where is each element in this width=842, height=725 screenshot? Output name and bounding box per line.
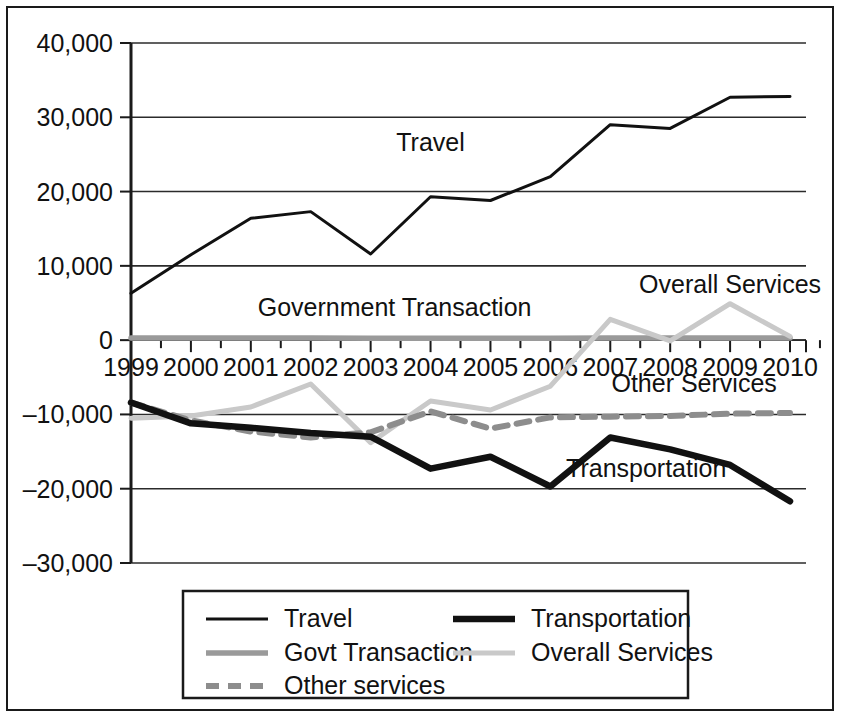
- series-line-travel: [131, 96, 790, 293]
- legend-label: Other services: [284, 671, 445, 699]
- figure-container: 40,00030,00020,00010,0000–10,000–20,000–…: [0, 0, 842, 725]
- y-tick-label: 10,000: [37, 252, 113, 280]
- annotation-label: Transportation: [566, 454, 726, 482]
- x-axis: [131, 340, 820, 352]
- annotation-label: Travel: [396, 128, 465, 156]
- legend-label: Overall Services: [531, 638, 713, 666]
- legend-label: Transportation: [531, 604, 691, 632]
- annotation-label: Overall Services: [639, 270, 821, 298]
- chart-legend: TravelTransportationGovt TransactionOver…: [183, 591, 713, 699]
- x-tick-label: 2000: [163, 353, 219, 381]
- x-tick-label: 2002: [283, 353, 339, 381]
- y-tick-label: 20,000: [37, 178, 113, 206]
- y-tick-labels: 40,00030,00020,00010,0000–10,000–20,000–…: [23, 29, 113, 577]
- legend-label: Travel: [284, 604, 353, 632]
- y-tick-label: –30,000: [23, 549, 113, 577]
- line-chart: 40,00030,00020,00010,0000–10,000–20,000–…: [0, 0, 842, 725]
- y-tick-label: 0: [99, 326, 113, 354]
- y-tick-label: –10,000: [23, 400, 113, 428]
- x-tick-label: 2005: [463, 353, 519, 381]
- x-tick-label: 2003: [343, 353, 399, 381]
- y-tick-label: –20,000: [23, 475, 113, 503]
- y-tick-label: 40,000: [37, 29, 113, 57]
- legend-label: Govt Transaction: [284, 638, 473, 666]
- annotation-label: Other Services: [611, 369, 776, 397]
- y-tick-label: 30,000: [37, 103, 113, 131]
- y-axis: [120, 43, 131, 563]
- x-tick-label: 2004: [403, 353, 459, 381]
- annotation-label: Government Transaction: [258, 293, 532, 321]
- x-tick-label: 2001: [223, 353, 279, 381]
- x-tick-label: 1999: [103, 353, 159, 381]
